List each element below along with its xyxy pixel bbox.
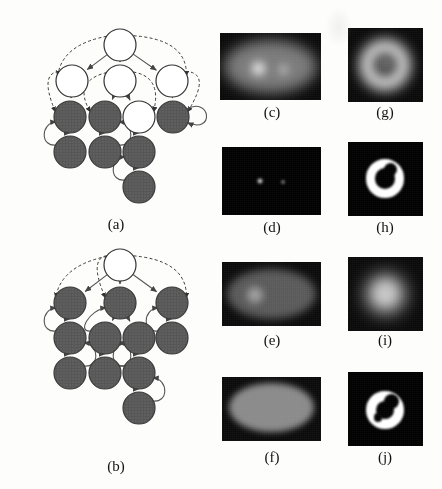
graph-node-dark[interactable] xyxy=(123,357,155,389)
graph-edge-solid xyxy=(128,317,130,321)
figure-root: (a)(b)(c)(d)(e)(f)(g)(h)(i)(j) xyxy=(0,0,442,489)
graph-node-light[interactable] xyxy=(156,65,188,97)
panel-film-grain xyxy=(222,147,321,215)
graph-edge-recurrent xyxy=(44,122,57,145)
graph-node-light[interactable] xyxy=(123,101,155,133)
graph-node-light[interactable] xyxy=(104,249,136,281)
graph-node-dark[interactable] xyxy=(89,101,121,133)
image-panel-d xyxy=(222,147,321,215)
graph-edge-solid xyxy=(133,54,156,70)
image-panel-h xyxy=(348,142,423,216)
graph-edge-recurrent xyxy=(44,308,57,331)
graph-node-dark[interactable] xyxy=(89,357,121,389)
caption-a: (a) xyxy=(86,216,146,233)
caption-i: (i) xyxy=(355,332,415,349)
graph-node-dark[interactable] xyxy=(157,101,189,133)
graph-node-dark[interactable] xyxy=(89,322,121,354)
image-panel-e xyxy=(222,262,321,326)
graph-edge-solid xyxy=(133,274,157,291)
graph-node-dark[interactable] xyxy=(104,287,136,319)
graph-node-light[interactable] xyxy=(56,65,88,97)
graph-edge-solid xyxy=(85,275,107,292)
graph-edge-solid xyxy=(87,55,107,70)
panel-film-grain xyxy=(348,372,423,446)
panel-film-grain xyxy=(348,142,423,216)
panel-film-grain xyxy=(348,257,423,331)
panel-film-grain xyxy=(222,377,321,441)
caption-d: (d) xyxy=(242,219,302,236)
graph-node-dark[interactable] xyxy=(54,101,86,133)
graph-node-light[interactable] xyxy=(104,65,136,97)
graph-node-dark[interactable] xyxy=(123,171,155,203)
caption-e: (e) xyxy=(242,332,302,349)
caption-j: (j) xyxy=(355,449,415,466)
caption-f: (f) xyxy=(242,449,302,466)
image-panel-c xyxy=(220,33,321,100)
panel-film-grain xyxy=(348,28,423,102)
graph-node-dark[interactable] xyxy=(156,322,188,354)
image-panel-g xyxy=(348,28,423,102)
graph-edge-solid xyxy=(112,96,114,100)
graph-node-dark[interactable] xyxy=(54,287,86,319)
graph-node-dark[interactable] xyxy=(123,136,155,168)
graph-node-dark[interactable] xyxy=(156,287,188,319)
graph-node-dark[interactable] xyxy=(54,322,86,354)
graph-node-dark[interactable] xyxy=(54,357,86,389)
caption-g: (g) xyxy=(355,104,415,121)
graph-node-dark[interactable] xyxy=(123,392,155,424)
image-panel-j xyxy=(348,372,423,446)
image-panel-i xyxy=(348,257,423,331)
graph-node-dark[interactable] xyxy=(89,136,121,168)
panel-film-grain xyxy=(220,33,321,100)
caption-c: (c) xyxy=(242,104,302,121)
graph-edge-solid xyxy=(127,95,130,100)
image-panel-f xyxy=(222,377,321,441)
panel-film-grain xyxy=(222,262,321,326)
graph-node-dark[interactable] xyxy=(54,136,86,168)
graph-edge-recurrent xyxy=(152,378,165,401)
scan-smudge-artifact xyxy=(325,6,353,48)
caption-h: (h) xyxy=(355,219,415,236)
graph-node-light[interactable] xyxy=(104,29,136,61)
graph-node-dark[interactable] xyxy=(123,322,155,354)
caption-b: (b) xyxy=(86,458,146,475)
